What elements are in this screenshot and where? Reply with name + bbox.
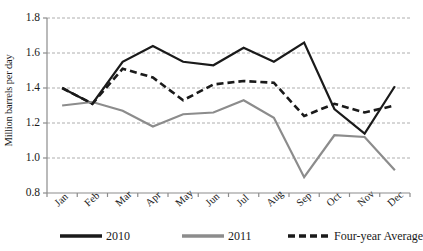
legend-label-2010: 2010: [106, 229, 130, 244]
legend-label-four-year-average: Four-year Average: [334, 229, 423, 244]
legend-swatch-2010: [60, 230, 102, 242]
legend-item-2011: 2011: [182, 227, 252, 245]
legend-label-2011: 2011: [228, 229, 252, 244]
series-line-2011: [62, 100, 395, 177]
chart-legend: 2010 2011 Four-year Average: [0, 225, 417, 251]
legend-item-2010: 2010: [60, 227, 130, 245]
legend-swatch-2011: [182, 230, 224, 242]
legend-swatch-four-year-average: [288, 230, 330, 242]
legend-item-four-year-average: Four-year Average: [288, 227, 423, 245]
